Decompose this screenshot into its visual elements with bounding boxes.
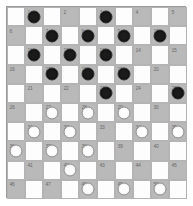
square-24[interactable]: 24 [133,84,151,103]
square-14[interactable]: 14 [133,45,151,64]
square-48[interactable]: 48 [79,180,97,199]
black-piece[interactable] [64,48,77,61]
square-5[interactable]: 5 [169,7,187,26]
white-piece[interactable] [154,183,167,196]
square-41[interactable]: 41 [25,161,43,180]
black-piece[interactable] [28,10,41,23]
square-31[interactable]: 31 [25,122,43,141]
square-11[interactable]: 11 [25,45,43,64]
black-piece[interactable] [100,87,113,100]
square-29[interactable]: 29 [115,103,133,122]
white-piece[interactable] [118,106,131,119]
square-50[interactable]: 50 [151,180,169,199]
square-8[interactable]: 8 [79,26,97,45]
square-7[interactable]: 7 [43,26,61,45]
square-37[interactable]: 37 [43,141,61,160]
square-r2c8 [133,26,151,45]
square-9[interactable]: 9 [115,26,133,45]
square-number-label: 46 [10,181,15,187]
black-piece[interactable] [100,48,113,61]
white-piece[interactable] [82,144,95,157]
square-25[interactable]: 25 [169,84,187,103]
square-r2c10 [169,26,187,45]
square-47[interactable]: 47 [43,180,61,199]
square-1[interactable]: 1 [25,7,43,26]
square-26[interactable]: 26 [7,103,25,122]
square-16[interactable]: 16 [7,65,25,84]
square-6[interactable]: 6 [7,26,25,45]
square-40[interactable]: 40 [151,141,169,160]
square-27[interactable]: 27 [43,103,61,122]
square-r3c5 [79,45,97,64]
square-38[interactable]: 38 [79,141,97,160]
square-3[interactable]: 3 [97,7,115,26]
square-12[interactable]: 12 [61,45,79,64]
square-46[interactable]: 46 [7,180,25,199]
square-22[interactable]: 22 [61,84,79,103]
white-piece[interactable] [172,125,185,138]
white-piece[interactable] [46,144,59,157]
square-39[interactable]: 39 [115,141,133,160]
square-r5c7 [115,84,133,103]
square-44[interactable]: 44 [133,161,151,180]
square-r2c6 [97,26,115,45]
white-piece[interactable] [64,125,77,138]
square-34[interactable]: 34 [133,122,151,141]
white-piece[interactable] [10,144,23,157]
square-28[interactable]: 28 [79,103,97,122]
black-piece[interactable] [118,29,131,42]
square-r8c10 [169,141,187,160]
square-r4c8 [133,65,151,84]
square-r5c1 [7,84,25,103]
black-piece[interactable] [46,29,59,42]
square-35[interactable]: 35 [169,122,187,141]
square-r3c9 [151,45,169,64]
square-r3c1 [7,45,25,64]
square-r10c6 [97,180,115,199]
square-r5c3 [43,84,61,103]
draughts-board[interactable]: 1234567891011121314151617181920212223242… [6,6,186,198]
white-piece[interactable] [64,164,77,177]
square-number-label: 5 [172,9,175,15]
square-number-label: 45 [172,162,177,168]
square-17[interactable]: 17 [43,65,61,84]
square-32[interactable]: 32 [61,122,79,141]
square-r5c9 [151,84,169,103]
black-piece[interactable] [172,87,185,100]
square-21[interactable]: 21 [25,84,43,103]
square-30[interactable]: 30 [151,103,169,122]
square-15[interactable]: 15 [169,45,187,64]
square-49[interactable]: 49 [115,180,133,199]
black-piece[interactable] [82,68,95,81]
square-10[interactable]: 10 [151,26,169,45]
white-piece[interactable] [46,106,59,119]
white-piece[interactable] [82,183,95,196]
white-piece[interactable] [118,183,131,196]
black-piece[interactable] [100,10,113,23]
square-43[interactable]: 43 [97,161,115,180]
white-piece[interactable] [28,125,41,138]
black-piece[interactable] [154,29,167,42]
black-piece[interactable] [28,48,41,61]
square-number-label: 26 [10,104,15,110]
square-36[interactable]: 36 [7,141,25,160]
square-33[interactable]: 33 [97,122,115,141]
black-piece[interactable] [82,29,95,42]
white-piece[interactable] [136,125,149,138]
square-42[interactable]: 42 [61,161,79,180]
square-13[interactable]: 13 [97,45,115,64]
square-19[interactable]: 19 [115,65,133,84]
square-18[interactable]: 18 [79,65,97,84]
square-23[interactable]: 23 [97,84,115,103]
square-r7c9 [151,122,169,141]
square-4[interactable]: 4 [133,7,151,26]
square-45[interactable]: 45 [169,161,187,180]
square-number-label: 33 [100,124,105,130]
square-number-label: 41 [28,162,33,168]
white-piece[interactable] [82,106,95,119]
black-piece[interactable] [46,68,59,81]
square-2[interactable]: 2 [61,7,79,26]
square-20[interactable]: 20 [151,65,169,84]
square-r9c9 [151,161,169,180]
black-piece[interactable] [118,68,131,81]
